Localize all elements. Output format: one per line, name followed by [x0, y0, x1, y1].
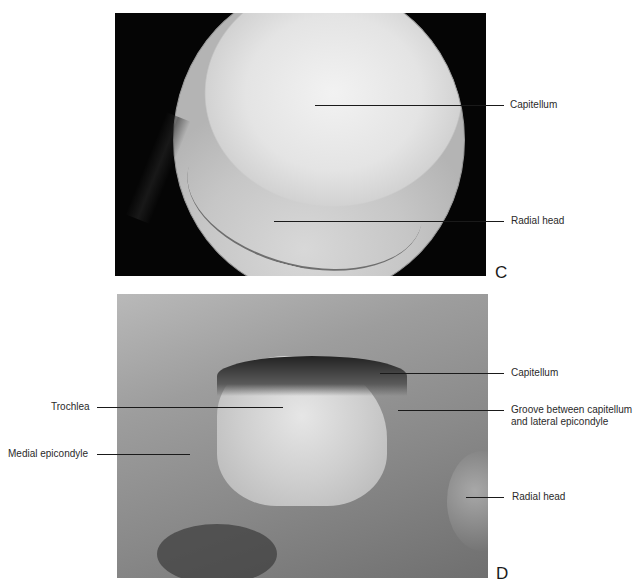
leader-line-c-radial-head	[274, 221, 504, 222]
leader-line-c-capitellum	[315, 105, 487, 106]
panel-c-arthroscopic-image	[115, 13, 486, 276]
leader-line-c-capitellum-out	[486, 105, 504, 106]
label-d-groove-line1: Groove between capitellum	[511, 404, 632, 416]
leader-line-d-groove	[398, 410, 504, 411]
label-d-radial-head: Radial head	[512, 491, 565, 503]
label-d-groove-line2: and lateral epicondyle	[511, 416, 608, 428]
leader-line-d-medial-epicondyle	[97, 454, 190, 455]
shadow-region	[157, 524, 277, 578]
panel-letter-c: C	[495, 264, 507, 282]
leader-line-d-capitellum	[380, 373, 504, 374]
label-c-capitellum: Capitellum	[510, 99, 557, 111]
articular-surface	[217, 356, 407, 396]
label-d-capitellum: Capitellum	[511, 367, 558, 379]
label-c-radial-head: Radial head	[511, 215, 564, 227]
label-d-medial-epicondyle: Medial epicondyle	[8, 448, 88, 460]
radial-head-specimen	[447, 451, 488, 551]
label-d-trochlea: Trochlea	[51, 401, 90, 413]
leader-line-d-trochlea	[97, 407, 283, 408]
leader-line-d-radial-head	[466, 497, 504, 498]
panel-d-specimen-image	[117, 294, 488, 578]
panel-letter-d: D	[496, 565, 508, 583]
